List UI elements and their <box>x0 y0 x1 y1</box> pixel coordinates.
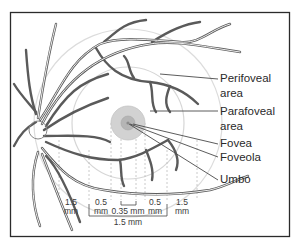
label-parafoveal-line2: area <box>220 120 275 132</box>
label-foveola: Foveola <box>220 151 261 163</box>
measure-left-outer: 1.5 mm <box>61 198 81 216</box>
measure-right-outer: 1.5 mm <box>172 198 192 216</box>
label-parafoveal: Parafoveal area <box>220 105 275 132</box>
label-perifoveal: Perifoveal area <box>220 72 271 99</box>
measure-fovea-width: 1.5 mm <box>108 218 148 227</box>
measure-center: 0.35 mm <box>106 207 150 216</box>
macula-diagram: Perifoveal area Parafoveal area Fovea Fo… <box>0 0 299 246</box>
label-perifoveal-line2: area <box>220 87 271 99</box>
label-parafoveal-line1: Parafoveal <box>220 105 275 117</box>
label-perifoveal-line1: Perifoveal <box>220 72 271 84</box>
label-umbo: Umbo <box>220 173 251 185</box>
measure-right-inner: 0.5 mm <box>146 198 164 216</box>
label-fovea: Fovea <box>220 137 252 149</box>
